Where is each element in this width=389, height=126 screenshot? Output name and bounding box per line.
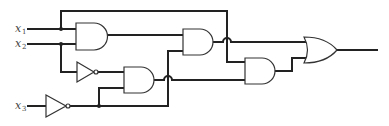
not-gate-1 [77, 62, 98, 82]
and-gate-3 [183, 29, 213, 55]
and-gate-2 [124, 67, 154, 93]
junction-dot [97, 104, 101, 108]
svg-text:2: 2 [22, 43, 26, 51]
svg-text:x: x [15, 99, 22, 112]
svg-text:1: 1 [22, 28, 26, 36]
svg-text:x: x [15, 37, 22, 50]
logic-circuit-diagram: x 1 x 2 x 3 [0, 0, 389, 126]
input-label-x3: x 3 [15, 99, 26, 113]
not-gate-2 [46, 95, 70, 117]
input-label-x2: x 2 [15, 37, 26, 51]
input-label-x1: x 1 [15, 22, 26, 36]
and-gate-1 [76, 23, 107, 50]
junction-dot [59, 27, 63, 31]
junction-dot [59, 42, 63, 46]
svg-text:x: x [15, 22, 22, 35]
and-gate-4 [245, 58, 275, 84]
or-gate [304, 37, 337, 63]
svg-text:3: 3 [22, 105, 26, 113]
